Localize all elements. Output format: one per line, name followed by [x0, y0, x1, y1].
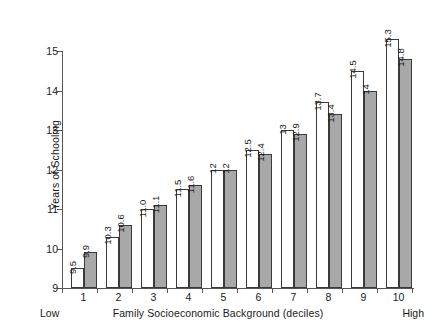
bar-value-label: 11.0 — [138, 199, 148, 217]
x-tick-mark — [97, 288, 98, 293]
bar-value-label: 11.5 — [173, 179, 183, 197]
bar-value-label: 15.3 — [383, 29, 393, 48]
y-tick-label: 9 — [52, 282, 58, 294]
y-tick-label: 10 — [46, 243, 58, 255]
bar-white-bar-decile-5: 12 — [211, 170, 224, 289]
bar-gray-bar-decile-1: 9.9 — [84, 252, 97, 288]
x-tick-label-4: 4 — [186, 291, 192, 303]
y-tick-label: 11 — [47, 203, 58, 215]
bar-white-bar-decile-7: 13 — [281, 130, 294, 288]
bar-value-label: 9.5 — [68, 261, 78, 274]
x-tick-mark — [132, 288, 133, 293]
x-tick-mark — [237, 288, 238, 293]
y-tick-label: 14 — [46, 85, 58, 97]
x-axis-line — [62, 288, 414, 289]
x-tick-mark — [377, 288, 378, 293]
x-tick-mark — [342, 288, 343, 293]
bar-value-label: 13 — [278, 124, 288, 135]
bar-group-decile-1: 9.59.9 — [71, 51, 97, 288]
bar-value-label: 10.3 — [103, 226, 113, 245]
bar-group-decile-5: 1212 — [211, 51, 237, 288]
bar-value-label: 12.5 — [243, 140, 253, 159]
x-tick-label-10: 10 — [393, 291, 405, 303]
x-tick-label-5: 5 — [221, 291, 227, 303]
x-tick-label-6: 6 — [256, 291, 262, 303]
bar-value-label: 9.9 — [81, 245, 91, 258]
bar-gray-bar-decile-2: 10.6 — [119, 225, 132, 288]
bar-white-bar-decile-10: 15.3 — [386, 39, 399, 288]
bar-value-label: 13.7 — [313, 92, 323, 111]
x-tick-label-3: 3 — [151, 291, 157, 303]
bar-value-label: 11.6 — [186, 175, 196, 193]
x-axis-title: Family Socioeconomic Background (deciles… — [0, 307, 436, 319]
bar-gray-bar-decile-7: 12.9 — [294, 134, 307, 288]
x-tick-mark — [272, 288, 273, 293]
bar-white-bar-decile-2: 10.3 — [106, 237, 119, 288]
bar-group-decile-10: 15.314.8 — [386, 51, 412, 288]
x-tick-label-7: 7 — [291, 291, 297, 303]
bar-value-label: 10.6 — [116, 215, 126, 234]
bar-white-bar-decile-4: 11.5 — [176, 189, 189, 288]
bar-gray-bar-decile-3: 11.1 — [154, 205, 167, 288]
bar-gray-bar-decile-6: 12.4 — [259, 154, 272, 288]
y-tick-label: 12 — [46, 164, 58, 176]
x-tick-label-2: 2 — [116, 291, 122, 303]
bar-gray-bar-decile-5: 12 — [224, 170, 237, 289]
bar-gray-bar-decile-10: 14.8 — [399, 59, 412, 288]
x-tick-mark — [167, 288, 168, 293]
bar-white-bar-decile-1: 9.5 — [71, 268, 84, 288]
bar-value-label: 12 — [208, 163, 218, 174]
bar-white-bar-decile-8: 13.7 — [316, 102, 329, 288]
x-tick-label-1: 1 — [81, 291, 87, 303]
x-tick-mark — [202, 288, 203, 293]
x-tick-label-8: 8 — [326, 291, 332, 303]
bar-white-bar-decile-9: 14.5 — [351, 71, 364, 288]
bar-value-label: 12 — [221, 163, 231, 174]
bar-value-label: 13.4 — [326, 104, 336, 123]
bar-group-decile-2: 10.310.6 — [106, 51, 132, 288]
axis-endpoint-high: High — [402, 307, 424, 319]
bar-value-label: 14.5 — [348, 61, 358, 80]
bar-white-bar-decile-3: 11.0 — [141, 209, 154, 288]
x-tick-mark — [307, 288, 308, 293]
x-tick-mark — [412, 288, 413, 293]
schooling-by-ses-bar-chart: Years of Schooling 9101112131415 9.59.91… — [0, 0, 436, 329]
bar-value-label: 14.8 — [396, 49, 406, 68]
bar-group-decile-8: 13.713.4 — [316, 51, 342, 288]
bar-group-decile-6: 12.512.4 — [246, 51, 272, 288]
bar-value-label: 12.4 — [256, 143, 266, 162]
y-tick-label: 13 — [46, 124, 58, 136]
bar-gray-bar-decile-9: 14 — [364, 91, 377, 289]
y-tick-label: 15 — [46, 45, 58, 57]
x-tick-label-9: 9 — [361, 291, 367, 303]
plot-area: 9101112131415 9.59.910.310.611.011.111.5… — [62, 51, 412, 288]
bar-value-label: 11.1 — [151, 195, 161, 213]
bar-group-decile-3: 11.011.1 — [141, 51, 167, 288]
bar-gray-bar-decile-8: 13.4 — [329, 114, 342, 288]
bar-group-decile-9: 14.514 — [351, 51, 377, 288]
bar-group-decile-7: 1312.9 — [281, 51, 307, 288]
bar-value-label: 14 — [361, 84, 371, 95]
bar-value-label: 12.9 — [291, 124, 301, 143]
bar-group-decile-4: 11.511.6 — [176, 51, 202, 288]
bar-gray-bar-decile-4: 11.6 — [189, 185, 202, 288]
x-tick-mark — [62, 288, 63, 293]
bar-white-bar-decile-6: 12.5 — [246, 150, 259, 288]
